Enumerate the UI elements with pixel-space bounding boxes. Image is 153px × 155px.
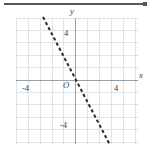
dashed-line-plot xyxy=(16,16,138,146)
coordinate-plane xyxy=(16,18,138,144)
y-tick-label-neg4: -4 xyxy=(60,120,67,130)
top-border-rule xyxy=(4,3,145,5)
x-tick-label-neg4: -4 xyxy=(22,83,29,93)
y-axis-label: y xyxy=(70,6,74,16)
origin-label: O xyxy=(63,80,69,90)
x-axis-label: x xyxy=(139,70,143,80)
figure-canvas: y x O -4 4 4 -4 xyxy=(0,0,153,155)
x-tick-label-pos4: 4 xyxy=(114,83,118,93)
y-tick-label-pos4: 4 xyxy=(64,28,68,38)
top-border-corner xyxy=(143,2,147,6)
series-dashed-line xyxy=(43,17,110,145)
